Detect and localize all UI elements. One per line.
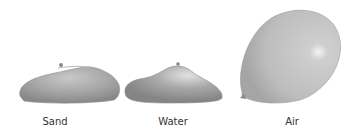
sand-balloon-icon xyxy=(20,63,120,103)
water-balloon-icon xyxy=(125,62,222,103)
air-balloon-icon xyxy=(240,10,341,103)
balloon-comparison-figure: Sand Water Air xyxy=(0,0,360,138)
sand-label: Sand xyxy=(42,116,67,127)
air-label: Air xyxy=(285,116,299,127)
water-label: Water xyxy=(158,116,188,127)
